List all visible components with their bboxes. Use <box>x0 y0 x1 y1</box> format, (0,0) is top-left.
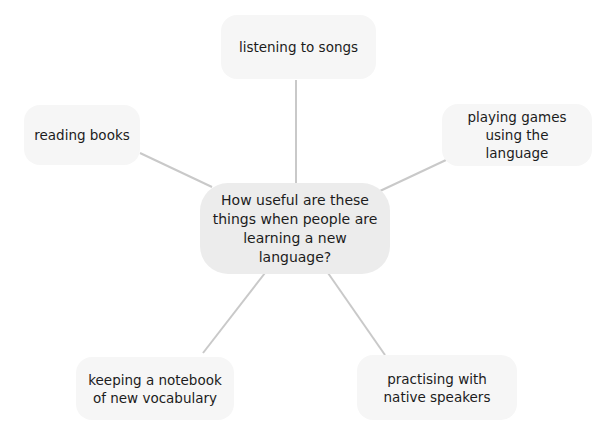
node-practising-native-speakers: practising with native speakers <box>357 355 517 420</box>
connector-right <box>380 160 446 191</box>
node-keeping-notebook: keeping a notebook of new vocabulary <box>76 357 234 420</box>
center-question-node: How useful are these things when people … <box>200 183 390 274</box>
node-label: keeping a notebook of new vocabulary <box>86 371 224 407</box>
connector-bottom-left <box>203 273 265 353</box>
node-label: reading books <box>34 126 130 144</box>
node-label: listening to songs <box>239 38 358 56</box>
connector-left <box>140 153 212 187</box>
connector-bottom-right <box>328 273 385 355</box>
node-listening-to-songs: listening to songs <box>221 15 376 79</box>
node-playing-games: playing games using the language <box>442 104 592 166</box>
center-question-text: How useful are these things when people … <box>210 191 380 267</box>
node-label: practising with native speakers <box>367 370 507 406</box>
node-reading-books: reading books <box>24 105 140 165</box>
node-label: playing games using the language <box>452 108 582 162</box>
